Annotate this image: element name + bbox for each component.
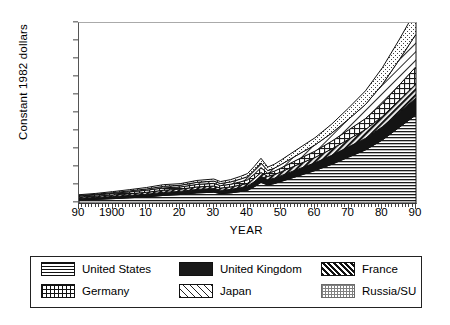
legend-label: United Kingdom — [220, 263, 302, 275]
legend-label: Russia/SU — [362, 285, 416, 297]
legend-label: France — [362, 263, 398, 275]
plot-area — [78, 22, 417, 204]
legend-label: Germany — [82, 285, 129, 297]
legend-swatch-icon — [321, 262, 355, 276]
legend-item: United Kingdom — [179, 262, 302, 276]
legend-item: Russia/SU — [321, 284, 416, 298]
legend-swatch-icon — [321, 284, 355, 298]
legend-item: Japan — [179, 284, 251, 298]
legend-swatch-icon — [41, 284, 75, 298]
legend-swatch-icon — [41, 262, 75, 276]
x-axis-label: YEAR — [78, 224, 415, 236]
legend-item: France — [321, 262, 398, 276]
chart-screenshot: Constant 1982 dollars 010002000300040005… — [0, 0, 450, 325]
legend-label: Japan — [220, 285, 251, 297]
legend-item: United States — [41, 262, 151, 276]
legend: United StatesUnited KingdomFranceGermany… — [30, 256, 422, 308]
legend-item: Germany — [41, 284, 129, 298]
legend-swatch-icon — [179, 262, 213, 276]
legend-label: United States — [82, 263, 151, 275]
area-series-svg — [79, 23, 416, 203]
y-axis-label: Constant 1982 dollars — [17, 0, 29, 167]
stacked-area-chart: Constant 1982 dollars 010002000300040005… — [0, 0, 450, 245]
legend-swatch-icon — [179, 284, 213, 298]
